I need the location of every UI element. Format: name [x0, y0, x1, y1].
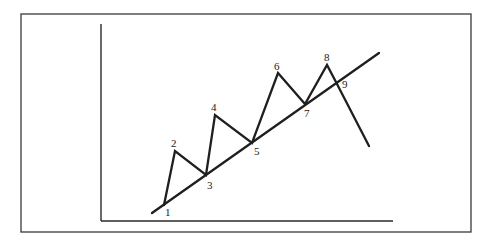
trendline-diagram: 1 2 3 4 5 6 7 8 9 [0, 0, 492, 241]
point-label-5: 5 [254, 145, 260, 157]
point-label-9: 9 [342, 78, 348, 90]
point-label-1: 1 [165, 206, 171, 218]
point-label-6: 6 [274, 60, 280, 72]
point-label-3: 3 [207, 179, 213, 191]
point-label-2: 2 [171, 137, 177, 149]
point-label-8: 8 [324, 51, 330, 63]
uptrend-line [152, 53, 379, 213]
point-label-4: 4 [211, 101, 217, 113]
outer-frame [21, 14, 471, 232]
point-label-7: 7 [304, 107, 310, 119]
